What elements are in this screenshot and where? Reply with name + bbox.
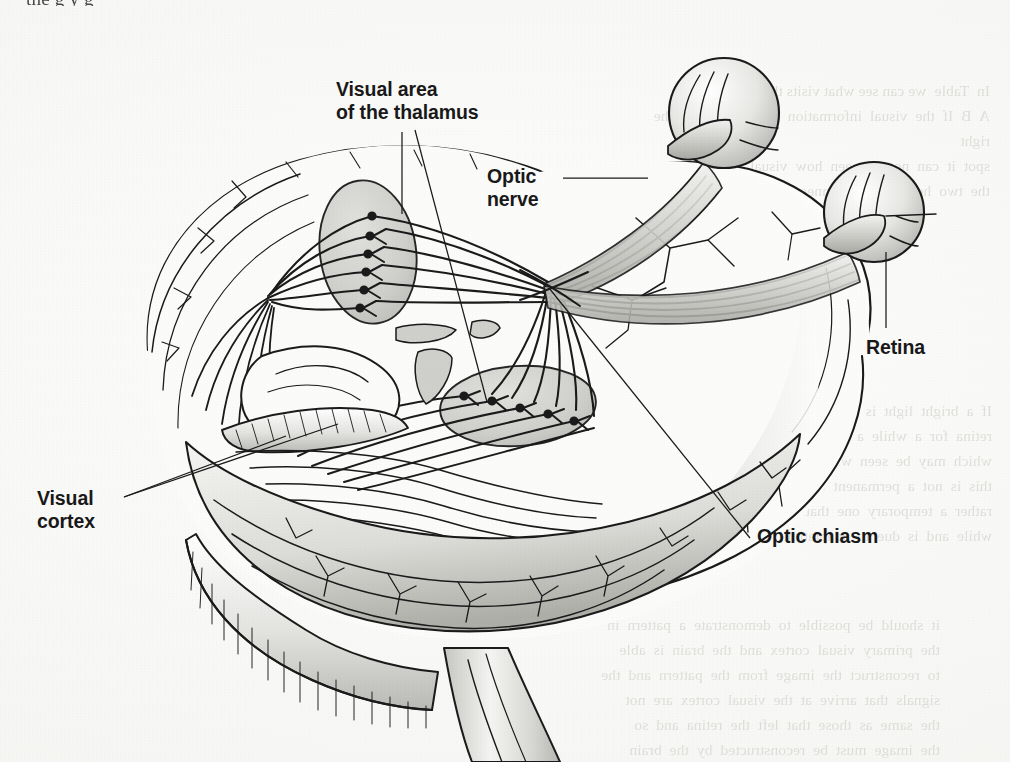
- label-visual-area-of-thalamus: Visual area of the thalamus: [336, 78, 479, 123]
- visual-pathway-illustration: [0, 0, 1010, 762]
- figure-page: In Table we can see what visits the brai…: [0, 0, 1010, 762]
- label-optic-chiasm: Optic chiasm: [757, 525, 878, 548]
- label-retina: Retina: [866, 336, 925, 359]
- label-visual-cortex: Visual cortex: [37, 487, 95, 532]
- label-optic-nerve: Optic nerve: [487, 165, 539, 210]
